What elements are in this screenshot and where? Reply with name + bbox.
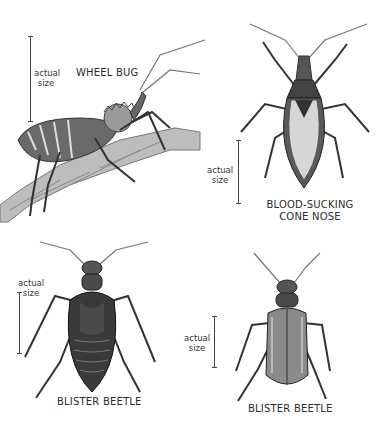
blister-beetle-1-illustration bbox=[0, 232, 200, 402]
size-note: actual size bbox=[207, 165, 233, 185]
wheel-bug-illustration bbox=[0, 0, 200, 230]
blister-beetle-1-panel: actual size BLISTER BEETLE bbox=[0, 232, 200, 447]
specimen-label: BLISTER BEETLE bbox=[248, 403, 333, 415]
cone-nose-panel: actual size BLOOD-SUCKING CONE NOSE bbox=[195, 0, 391, 240]
size-scale-bar bbox=[214, 316, 215, 368]
blister-beetle-2-panel: actual size BLISTER BEETLE bbox=[180, 245, 391, 447]
size-note: actual size bbox=[18, 278, 44, 298]
specimen-label: BLOOD-SUCKING CONE NOSE bbox=[255, 199, 365, 223]
specimen-label: BLISTER BEETLE bbox=[57, 396, 142, 408]
size-scale-bar bbox=[19, 292, 20, 354]
wheel-bug-panel: actual size WHEEL BUG bbox=[0, 0, 200, 230]
blister-beetle-2-illustration bbox=[180, 245, 391, 405]
size-note: actual size bbox=[184, 333, 210, 353]
size-scale-bar bbox=[238, 140, 239, 204]
